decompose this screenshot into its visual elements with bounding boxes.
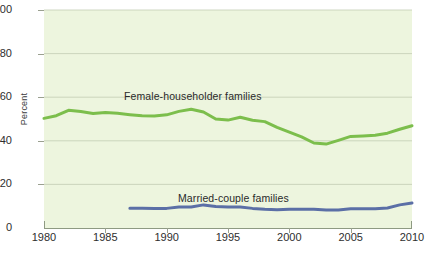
y-tick-label: 0: [0, 222, 12, 233]
x-tick-mark: [228, 228, 229, 233]
x-tick-label: 2010: [382, 232, 427, 243]
y-axis-title: Percent: [19, 79, 29, 139]
y-tick-label: 60: [0, 91, 12, 102]
y-tick-mark: [38, 97, 44, 98]
y-tick-mark: [38, 184, 44, 185]
x-tick-label: 1980: [14, 232, 74, 243]
x-tick-mark: [167, 228, 168, 233]
chart-canvas: [0, 0, 427, 256]
y-tick-mark: [38, 141, 44, 142]
y-tick-label: 40: [0, 135, 12, 146]
x-tick-label: 1990: [137, 232, 197, 243]
x-tick-label: 1995: [198, 232, 258, 243]
line-chart: Percent 100806040200 1980198519901995200…: [0, 0, 427, 256]
y-tick-label: 100: [0, 4, 12, 15]
y-tick-mark: [38, 54, 44, 55]
x-tick-label: 1985: [75, 232, 135, 243]
series-label-married-couple: Married-couple families: [178, 192, 289, 204]
y-tick-label: 80: [0, 48, 12, 59]
y-tick-mark: [38, 10, 44, 11]
y-tick-label: 20: [0, 178, 12, 189]
x-tick-label: 2005: [321, 232, 381, 243]
series-label-female-householder: Female-householder families: [124, 90, 262, 102]
x-axis-left-cap: [44, 221, 45, 228]
x-tick-mark: [351, 228, 352, 233]
x-tick-label: 2000: [259, 232, 319, 243]
series-line-female-householder: [44, 109, 412, 144]
x-axis-right-cap: [411, 221, 412, 228]
x-tick-mark: [105, 228, 106, 233]
x-tick-mark: [289, 228, 290, 233]
